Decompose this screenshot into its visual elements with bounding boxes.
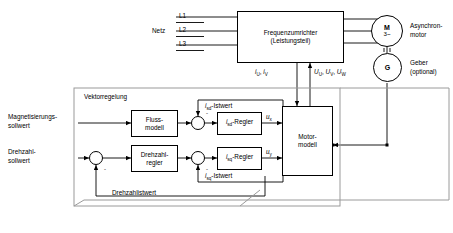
- speed-controller-line2: regler: [141, 159, 169, 167]
- phase-l2-label: L2: [179, 26, 186, 34]
- frequency-converter-block: Frequenzumrichter (Leistungsteil): [237, 11, 344, 63]
- converter-subtitle: (Leistungsteil): [264, 37, 318, 45]
- speed-sum-minus-sign: -: [104, 166, 106, 174]
- encoder-symbol: G: [373, 53, 402, 82]
- flux-setpoint-label-line2: sollwert: [8, 122, 30, 130]
- encoder-label-line1: Geber: [410, 59, 428, 67]
- isd-regulator-label: -Regler: [232, 118, 253, 125]
- motor-label-line2: motor: [410, 31, 426, 39]
- vector-control-title: Vektorregelung: [84, 93, 127, 101]
- phase-l1-label: L1: [179, 12, 186, 20]
- flux-model-line2: modell: [145, 124, 164, 132]
- flux-model-line1: Fluss-: [145, 116, 164, 124]
- motor-label-line1: Asynchron-: [410, 22, 442, 30]
- flux-setpoint-label-line1: Magnetisierungs-: [8, 113, 57, 121]
- motor-phase-mark: 3~: [383, 31, 390, 38]
- speed-setpoint-label-line2: sollwert: [8, 157, 30, 165]
- speed-controller-line1: Drehzahl-: [141, 151, 169, 159]
- isd-actual-value-label: isd-Istwert: [205, 102, 232, 113]
- motor-model-line1: Motor-: [298, 133, 317, 141]
- phase-l3-label: L3: [179, 40, 186, 48]
- isq-regulator-block: isq-Regler: [217, 147, 262, 170]
- isd-regulator-block: isd-Regler: [217, 112, 262, 135]
- isq-summing-junction: [191, 151, 205, 165]
- encoder-label-line2: (optional): [410, 68, 437, 76]
- isq-regulator-label: -Regler: [232, 153, 253, 160]
- measured-voltages-label: UU, UV, UW: [314, 68, 346, 79]
- ux-signal-label: ux: [266, 113, 272, 124]
- flux-model-block: Fluss- modell: [131, 110, 178, 137]
- asynchronous-motor-symbol: M 3~: [371, 15, 403, 47]
- converter-title: Frequenzumrichter: [264, 29, 318, 37]
- motor-model-block: Motor- modell: [282, 106, 333, 176]
- mains-label: Netz: [152, 27, 165, 35]
- motor-model-line2: modell: [298, 141, 317, 149]
- speed-controller-block: Drehzahl- regler: [131, 145, 178, 172]
- uy-signal-label: uy: [266, 148, 272, 159]
- speed-summing-junction: [89, 151, 103, 165]
- isd-summing-junction: [191, 116, 205, 130]
- vector-control-block-diagram: Netz L1 L2 L3 Frequenzumrichter (Leistun…: [0, 0, 453, 233]
- measured-currents-label: iU, iV: [255, 68, 268, 79]
- encoder-symbol-letter: G: [385, 64, 390, 72]
- speed-setpoint-label-line1: Drehzahl-: [8, 148, 36, 156]
- isq-actual-value-label: isq-Istwert: [205, 172, 232, 183]
- speed-actual-value-label: Drehzahlistwert: [112, 189, 156, 197]
